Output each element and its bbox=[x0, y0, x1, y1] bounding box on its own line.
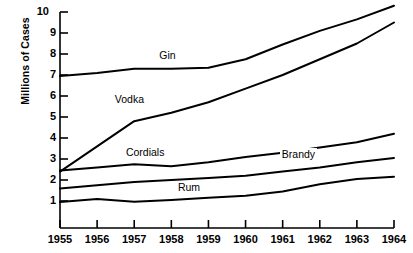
y-axis-tick-label: 7 bbox=[36, 68, 56, 80]
x-axis-tick-label: 1957 bbox=[117, 233, 151, 245]
axis-lines bbox=[60, 12, 394, 228]
x-axis-tick-label: 1964 bbox=[377, 233, 411, 245]
x-axis-tick-label: 1959 bbox=[191, 233, 225, 245]
x-axis-tick-label: 1960 bbox=[229, 233, 263, 245]
x-axis-tick-label: 1963 bbox=[340, 233, 374, 245]
y-axis-tick-label: 3 bbox=[36, 152, 56, 164]
series-line-brandy bbox=[60, 158, 394, 188]
x-axis-tick-label: 1955 bbox=[43, 233, 77, 245]
series-line-gin bbox=[60, 6, 394, 76]
y-axis-tick-label: 8 bbox=[36, 47, 56, 59]
y-axis-tick-label: 9 bbox=[36, 26, 56, 38]
series-line-rum bbox=[60, 177, 394, 202]
series-label-rum: Rum bbox=[176, 181, 202, 193]
x-axis-tick-label: 1956 bbox=[80, 233, 114, 245]
y-axis-tick-label: 10 bbox=[29, 5, 49, 17]
series-label-cordials: Cordials bbox=[124, 146, 167, 158]
x-axis-tick-label: 1961 bbox=[266, 233, 300, 245]
series-label-vodka: Vodka bbox=[113, 93, 146, 105]
y-axis-tick-label: 5 bbox=[36, 110, 56, 122]
series-line-cordials bbox=[60, 134, 394, 171]
series-label-brandy: Brandy bbox=[280, 148, 317, 160]
y-axis-tick-label: 6 bbox=[36, 89, 56, 101]
y-axis-ticks bbox=[60, 12, 68, 201]
data-series-lines bbox=[60, 6, 394, 202]
y-axis-tick-label: 2 bbox=[36, 173, 56, 185]
y-axis-tick-label: 1 bbox=[36, 194, 56, 206]
series-label-gin: Gin bbox=[157, 49, 177, 61]
line-chart: Millions of Cases 12345678910 1955195619… bbox=[0, 0, 413, 253]
y-axis-tick-label: 4 bbox=[36, 131, 56, 143]
series-line-vodka bbox=[60, 23, 394, 172]
x-axis-tick-label: 1958 bbox=[154, 233, 188, 245]
x-axis-tick-label: 1962 bbox=[303, 233, 337, 245]
plot-area bbox=[0, 0, 413, 253]
x-axis-ticks bbox=[60, 220, 394, 228]
